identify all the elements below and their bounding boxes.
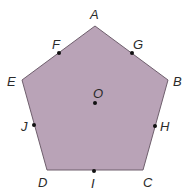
center-o-dot [93,101,97,105]
label-g: G [133,37,143,52]
label-c: C [143,175,153,190]
label-e: E [7,74,16,89]
label-j: J [20,119,28,134]
label-h: H [160,119,170,134]
point-h-dot [153,124,157,128]
label-a: A [89,7,99,22]
label-d: D [38,175,47,190]
label-f: F [52,37,61,52]
label-b: B [173,74,182,89]
label-i: I [91,176,95,191]
pentagon-diagram: A B C D E F G H I J O [0,0,190,193]
label-o: O [93,86,103,101]
point-j-dot [32,123,36,127]
point-i-dot [92,169,96,173]
